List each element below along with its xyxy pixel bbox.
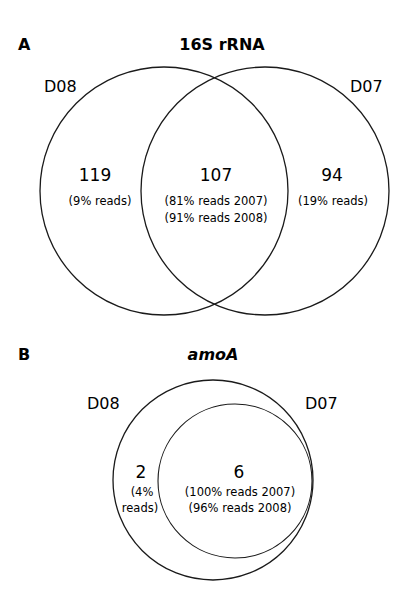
region-overlap-count: 107 xyxy=(200,165,232,185)
set-label-d07-b: D07 xyxy=(305,394,338,413)
region-overlap-reads-2008: (91% reads 2008) xyxy=(164,211,267,225)
region-b-overlap-reads-2008: (96% reads 2008) xyxy=(188,501,291,515)
panel-a-letter: A xyxy=(18,35,31,54)
region-d07-only-reads: (19% reads) xyxy=(298,194,368,208)
set-label-d08-b: D08 xyxy=(87,394,120,413)
region-b-overlap-reads-2007: (100% reads 2007) xyxy=(185,485,295,499)
venn-circle-d07 xyxy=(141,67,389,315)
set-label-d07: D07 xyxy=(350,77,383,96)
region-b-d08-only-count: 2 xyxy=(136,462,147,482)
panel-a-title: 16S rRNA xyxy=(179,35,265,54)
region-d08-only-reads: (9% reads) xyxy=(69,194,132,208)
panel-b-title: amoA xyxy=(188,345,239,364)
region-b-d08-only-reads-1: (4% xyxy=(131,485,154,499)
region-b-overlap-count: 6 xyxy=(234,462,245,482)
venn-figure: A 16S rRNA D08 D07 119 (9% reads) 107 (8… xyxy=(0,0,404,616)
venn-circle-d08 xyxy=(40,67,288,315)
panel-b-letter: B xyxy=(18,345,30,364)
region-d08-only-count: 119 xyxy=(79,165,111,185)
region-d07-only-count: 94 xyxy=(321,165,343,185)
region-overlap-reads-2007: (81% reads 2007) xyxy=(164,194,267,208)
set-label-d08: D08 xyxy=(44,77,77,96)
region-b-d08-only-reads-2: reads) xyxy=(122,501,158,515)
